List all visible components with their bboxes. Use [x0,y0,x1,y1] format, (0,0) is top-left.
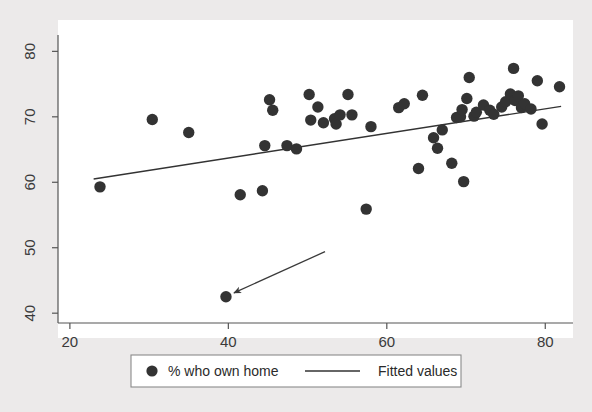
scatter-point [361,203,372,214]
scatter-point [365,121,376,132]
scatter-point [456,104,467,115]
scatter-point [417,90,428,101]
plot-area-background [58,20,573,338]
scatter-point [334,109,345,120]
scatter-point [428,132,439,143]
legend-marker-swatch [146,365,157,376]
x-tick-label-20: 20 [62,333,79,350]
scatter-point [554,81,565,92]
y-tick-label-40: 40 [22,305,39,322]
x-tick-label-60: 60 [378,333,395,350]
legend-marker-label: % who own home [168,363,279,379]
y-tick-label-60: 60 [22,174,39,191]
scatter-point [532,75,543,86]
scatter-point [432,143,443,154]
scatter-point [147,114,158,125]
scatter-plot: 4050607080 20406080 % who own home Fitte… [0,0,592,412]
scatter-point [183,127,194,138]
scatter-point [464,72,475,83]
figure-canvas: 4050607080 20406080 % who own home Fitte… [0,0,592,412]
x-tick-label-40: 40 [220,333,237,350]
scatter-point [508,63,519,74]
scatter-point [220,291,231,302]
y-tick-label-70: 70 [22,108,39,125]
y-tick-label-50: 50 [22,239,39,256]
scatter-point [291,143,302,154]
scatter-point [259,140,270,151]
scatter-point [318,117,329,128]
scatter-point [264,94,275,105]
scatter-point [446,158,457,169]
scatter-point [267,105,278,116]
scatter-point [458,176,469,187]
scatter-point [305,114,316,125]
scatter-point [303,89,314,100]
legend: % who own home Fitted values [131,355,461,387]
scatter-point [342,89,353,100]
x-tick-label-80: 80 [537,333,554,350]
scatter-point [461,93,472,104]
scatter-point [312,101,323,112]
scatter-point [399,98,410,109]
scatter-point [437,124,448,135]
scatter-point [257,185,268,196]
scatter-point [235,189,246,200]
scatter-point [346,109,357,120]
y-tick-label-80: 80 [22,43,39,60]
legend-line-label: Fitted values [378,363,457,379]
scatter-point [536,118,547,129]
scatter-point [413,163,424,174]
scatter-point [525,103,536,114]
scatter-point [94,181,105,192]
